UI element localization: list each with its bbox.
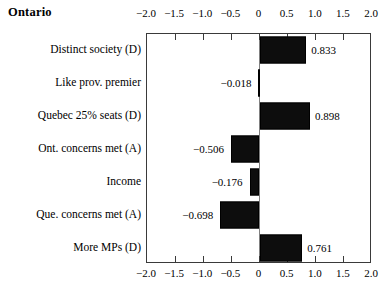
x-tick-label-top: 0: [256, 6, 262, 20]
category-label: More MPs (D): [0, 241, 141, 253]
x-tick-label-bottom: −2.0: [136, 266, 156, 280]
x-tick-label-top: 2.0: [364, 6, 378, 20]
x-tick-label-bottom: 1.0: [308, 266, 322, 280]
x-tick-label-top: 1.0: [308, 6, 322, 20]
category-label: Distinct society (D): [0, 43, 141, 55]
x-tick-label-bottom: 0.5: [280, 266, 294, 280]
category-label: Ont. concerns met (A): [0, 142, 141, 154]
bar-value-label: −0.176: [212, 176, 248, 188]
x-tick-label-bottom: 1.5: [336, 266, 350, 280]
x-tick-label-bottom: −1.5: [164, 266, 184, 280]
plot-area: 0.833−0.0180.898−0.506−0.176−0.6980.761: [146, 33, 371, 263]
x-tick-label-top: −1.0: [192, 6, 212, 20]
bar[interactable]: [231, 135, 259, 162]
y-axis-category-labels: Distinct society (D)Like prov. premierQu…: [0, 33, 141, 263]
category-label: Income: [0, 175, 141, 187]
category-label: Quebec 25% seats (D): [0, 109, 141, 121]
bar-value-label: −0.018: [221, 77, 257, 89]
bar[interactable]: [260, 234, 303, 261]
bar-row: 0.898: [147, 100, 370, 133]
x-tick-label-bottom: 2.0: [364, 266, 378, 280]
x-axis-labels-bottom: −2.0−1.5−1.0−0.500.51.01.52.0: [0, 266, 390, 280]
bar-value-label: −0.506: [193, 143, 229, 155]
bar-row: −0.018: [147, 67, 370, 100]
category-label: Que. concerns met (A): [0, 208, 141, 220]
bar-value-label: 0.898: [310, 110, 340, 122]
x-tick-label-bottom: −0.5: [220, 266, 240, 280]
bar-row: −0.176: [147, 165, 370, 198]
bar[interactable]: [220, 201, 259, 228]
x-tick-label-top: 0.5: [280, 6, 294, 20]
category-label: Like prov. premier: [0, 76, 141, 88]
x-tick-label-top: 1.5: [336, 6, 350, 20]
x-tick-label-top: −1.5: [164, 6, 184, 20]
bar-chart: Ontario −2.0−1.5−1.0−0.500.51.01.52.0 0.…: [0, 0, 390, 287]
x-tick-label-bottom: 0: [256, 266, 262, 280]
x-tick-label-bottom: −1.0: [192, 266, 212, 280]
x-axis-labels-top: −2.0−1.5−1.0−0.500.51.01.52.0: [0, 6, 390, 20]
bar-row: 0.761: [147, 231, 370, 264]
x-tick-label-top: −0.5: [220, 6, 240, 20]
bar-row: −0.698: [147, 198, 370, 231]
bar[interactable]: [260, 37, 307, 64]
bar-value-label: 0.833: [306, 44, 336, 56]
bar[interactable]: [260, 103, 311, 130]
bar-value-label: −0.698: [182, 209, 218, 221]
bar-row: 0.833: [147, 34, 370, 67]
bar[interactable]: [250, 168, 260, 195]
x-tick-label-top: −2.0: [136, 6, 156, 20]
bar-row: −0.506: [147, 133, 370, 166]
bar[interactable]: [258, 70, 260, 97]
bar-value-label: 0.761: [302, 242, 332, 254]
